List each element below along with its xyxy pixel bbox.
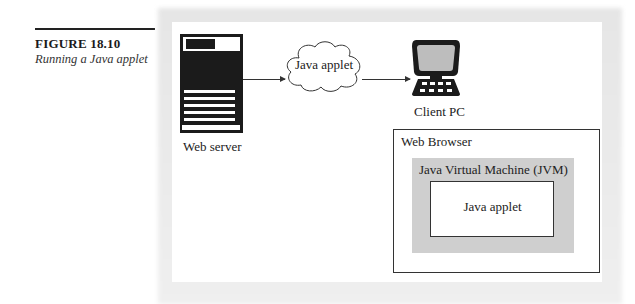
arrow-server-to-cloud	[243, 79, 285, 80]
web-browser-label: Web Browser	[401, 134, 472, 150]
figure-caption: Running a Java applet	[35, 52, 148, 67]
computer-terminal-icon	[410, 38, 462, 98]
cloud-label: Java applet	[285, 57, 363, 73]
client-pc-label: Client PC	[414, 104, 465, 120]
figure-number: FIGURE 18.10	[35, 36, 120, 52]
server-document-icon	[180, 34, 243, 133]
java-applet-label: Java applet	[430, 199, 555, 215]
jvm-label: Java Virtual Machine (JVM)	[419, 162, 568, 178]
arrow-cloud-to-pc	[362, 79, 410, 80]
caption-rule	[35, 28, 155, 30]
web-server-label: Web server	[183, 139, 242, 155]
